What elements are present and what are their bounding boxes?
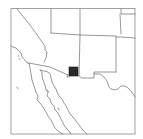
map-canvas xyxy=(0,0,143,139)
locator-map: Southwestern United States and Northwest… xyxy=(0,0,143,139)
highlight-square xyxy=(69,67,78,76)
